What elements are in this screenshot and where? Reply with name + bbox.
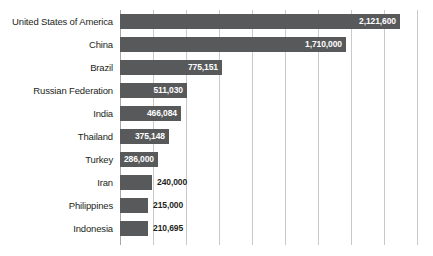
value-label: 1,710,000 — [305, 37, 346, 52]
bar-row-india: India 466,084 — [0, 102, 433, 125]
bar-wrapper: 775,151 — [120, 60, 222, 75]
bar[interactable] — [120, 198, 148, 213]
bar-wrapper: 210,695 — [120, 221, 183, 236]
bar[interactable]: 2,121,600 — [120, 14, 400, 29]
bar-wrapper: 286,000 — [120, 152, 158, 167]
value-label: 375,148 — [135, 129, 169, 144]
bar-row-indonesia: Indonesia 210,695 — [0, 217, 433, 240]
category-label: Russian Federation — [0, 79, 113, 102]
category-label: Brazil — [0, 56, 113, 79]
bar-rows: United States of America 2,121,600 China… — [0, 10, 433, 240]
value-label: 210,695 — [148, 221, 183, 236]
bar-wrapper: 511,030 — [120, 83, 187, 98]
bar-wrapper: 2,121,600 — [120, 14, 400, 29]
category-label: United States of America — [0, 10, 113, 33]
value-label: 466,084 — [147, 106, 181, 121]
bar-row-china: China 1,710,000 — [0, 33, 433, 56]
bar-wrapper: 1,710,000 — [120, 37, 346, 52]
value-label: 2,121,600 — [359, 14, 400, 29]
bar[interactable]: 775,151 — [120, 60, 222, 75]
horizontal-bar-chart: United States of America 2,121,600 China… — [0, 0, 433, 256]
bar-wrapper: 375,148 — [120, 129, 169, 144]
value-label: 215,000 — [148, 198, 183, 213]
bar[interactable]: 286,000 — [120, 152, 158, 167]
value-label: 286,000 — [124, 152, 158, 167]
bar[interactable] — [120, 175, 152, 190]
bar-row-philippines: Philippines 215,000 — [0, 194, 433, 217]
category-label: India — [0, 102, 113, 125]
bar[interactable]: 511,030 — [120, 83, 187, 98]
value-label: 240,000 — [152, 175, 187, 190]
bar-wrapper: 466,084 — [120, 106, 181, 121]
category-label: Turkey — [0, 148, 113, 171]
category-label: Iran — [0, 171, 113, 194]
bar-row-turkey: Turkey 286,000 — [0, 148, 433, 171]
bar[interactable]: 1,710,000 — [120, 37, 346, 52]
category-label: Philippines — [0, 194, 113, 217]
bar-row-brazil: Brazil 775,151 — [0, 56, 433, 79]
bar-row-united-states-of-america: United States of America 2,121,600 — [0, 10, 433, 33]
bar[interactable] — [120, 221, 148, 236]
category-label: Thailand — [0, 125, 113, 148]
category-label: Indonesia — [0, 217, 113, 240]
bar-row-thailand: Thailand 375,148 — [0, 125, 433, 148]
bar-wrapper: 215,000 — [120, 198, 183, 213]
value-label: 511,030 — [153, 83, 187, 98]
bar-row-iran: Iran 240,000 — [0, 171, 433, 194]
bar-row-russian-federation: Russian Federation 511,030 — [0, 79, 433, 102]
value-label: 775,151 — [188, 60, 222, 75]
bar[interactable]: 466,084 — [120, 106, 181, 121]
bar[interactable]: 375,148 — [120, 129, 169, 144]
bar-wrapper: 240,000 — [120, 175, 187, 190]
category-label: China — [0, 33, 113, 56]
